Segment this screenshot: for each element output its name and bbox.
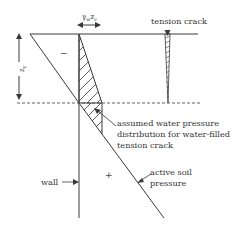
tension-crack <box>165 30 171 103</box>
water-pressure-label-line1: assumed water pressure <box>117 118 219 128</box>
water-pressure-pointer <box>98 111 116 126</box>
negative-pressure-line <box>30 34 79 103</box>
active-soil-label-line2: pressure <box>150 178 187 188</box>
water-pressure-hatch <box>60 10 110 150</box>
tension-crack-label: tension crack <box>151 16 208 26</box>
active-soil-label-line1: active soil <box>150 167 192 177</box>
wall-label: wall <box>41 177 59 187</box>
gamma-w-zc-label: γwzc <box>82 13 97 22</box>
tension-crack-diagram: zc γwzc tension crack − + assumed water … <box>0 0 247 230</box>
positive-zone-sign: + <box>105 170 113 180</box>
wall-pointer-arrow-icon <box>73 179 79 185</box>
negative-zone-sign: − <box>60 48 68 58</box>
water-pressure-label-line2: distribution for water-filled <box>117 129 230 139</box>
water-pressure-label-line3: tension crack <box>117 140 174 150</box>
